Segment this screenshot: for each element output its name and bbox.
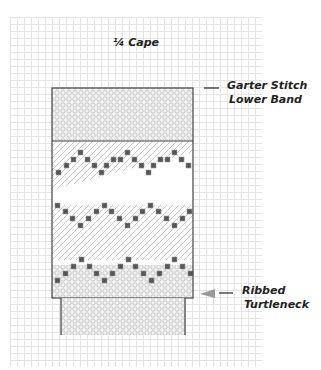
garter-band — [52, 88, 193, 141]
turtleneck-arrow-icon — [200, 289, 215, 298]
lower-band-label-1: Garter Stitch — [227, 79, 307, 92]
garter-bottom-zone — [52, 265, 193, 298]
turtleneck — [61, 298, 185, 335]
turtleneck-label-1: Ribbed — [242, 284, 285, 297]
cape-schematic — [0, 0, 321, 370]
turtleneck-label-2: Turtleneck — [244, 298, 309, 311]
lower-band-label-2: Lower Band — [229, 93, 302, 106]
diag-zone-mid — [52, 205, 193, 260]
